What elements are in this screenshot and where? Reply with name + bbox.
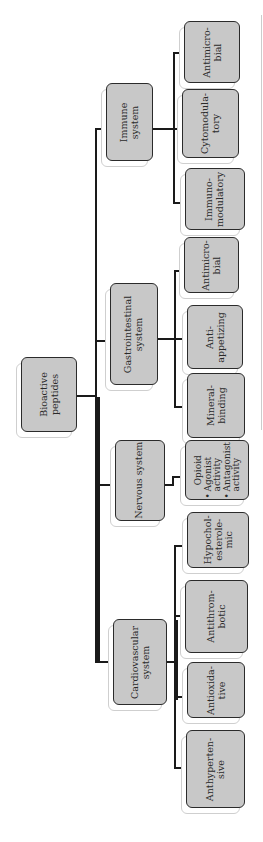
leaf-cv-hypocholesterolemic: Hypochol- esterole- mic [187,512,249,568]
leaf-gi-mineral-binding: Mineral- binding [187,373,245,438]
leaf-label: mic [223,516,234,565]
leaf-label: appetizing [215,312,226,363]
opioid-activity-list: Agonistactivity Antagonistactivity [203,442,241,498]
list-item: Agonistactivity [203,442,222,491]
leaf-immune-cytomodulatory: Cytomodula- tory [182,89,239,158]
leaf-label: modulatory [215,171,226,226]
leaf-label: botic [217,590,228,642]
leaf-label: bial [212,240,223,291]
category-cardiovascular-system: Cardiovascular system [113,619,167,705]
leaf-label: sive [216,737,227,800]
leaf-label: Cytomodula- [200,93,211,154]
leaf-immune-antimicrobial: Antimicro- bial [184,21,240,83]
category-label: system [129,102,140,142]
leaf-immune-immunomodulatory: Immuno- modulatory [185,168,245,230]
leaf-label: Antioxida- [206,666,217,715]
leaf-cv-antihypertensive: Anthyperten- sive [186,730,245,808]
list-item: Antagonistactivity [222,442,241,491]
leaf-nervous-opioid: Opioid Agonistactivity Antagonistactivit… [185,440,249,500]
category-label: Cardiovascular [130,626,141,699]
category-label: Immune [119,102,130,142]
leaf-label: Anthyperten- [205,737,216,800]
leaf-gi-antimicrobial: Antimicro- bial [184,237,239,293]
leaf-gi-anti-appetizing: Anti- appetizing [187,305,243,369]
leaf-label: esterole- [213,516,224,565]
category-gastrointestinal-system: Gastrointestinal system [110,283,158,385]
leaf-label: binding [216,385,227,426]
category-immune-system: Immune system [106,83,153,161]
leaf-label: tive [216,666,227,715]
root-label-line: peptides [49,372,60,417]
leaf-label: Hypochol- [202,516,213,565]
leaf-label: bial [212,27,223,78]
category-label: system [134,295,145,372]
root-label-line: Bioactive [38,372,49,417]
leaf-label: Opioid [193,442,204,498]
page-edge-line [261,15,262,430]
leaf-label: tory [211,93,222,154]
leaf-label: Antimicro- [202,27,213,78]
leaf-cv-antioxidative: Antioxida- tive [187,662,245,718]
category-label: Nervous system [135,442,146,519]
category-nervous-system: Nervous system [115,440,165,521]
leaf-cv-antithrombotic: Antithrom- botic [185,580,248,653]
category-label: system [140,626,151,699]
leaf-label: Anti- [205,312,216,363]
leaf-label: Mineral- [206,385,217,426]
root-node-bioactive-peptides: Bioactive peptides [21,357,77,432]
